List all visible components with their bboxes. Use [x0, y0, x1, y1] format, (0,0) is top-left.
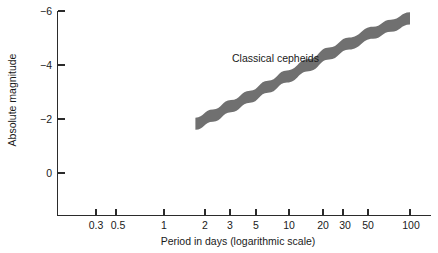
period-luminosity-plot: −6 −4 −2 0 0.3 0.5 1 2 3 5 10 2 — [0, 0, 438, 253]
x-tick-label: 1 — [161, 219, 167, 231]
x-axis-title: Period in days (logarithmic scale) — [161, 235, 316, 247]
x-axis-ticks — [96, 209, 410, 216]
y-tick-label: −2 — [40, 113, 52, 125]
x-tick-label: 30 — [339, 219, 351, 231]
y-axis-ticks — [58, 11, 65, 173]
x-tick-label: 0.5 — [111, 219, 126, 231]
axis-lines — [58, 11, 432, 216]
x-tick-label: 50 — [362, 219, 374, 231]
y-axis-tick-labels: −6 −4 −2 0 — [40, 5, 52, 179]
classical-cepheids-band — [195, 12, 410, 129]
x-tick-label: 0.3 — [89, 219, 104, 231]
x-tick-label: 100 — [402, 219, 420, 231]
x-tick-label: 5 — [253, 219, 259, 231]
y-tick-label: −6 — [40, 5, 52, 17]
x-tick-label: 10 — [283, 219, 295, 231]
x-tick-label: 3 — [227, 219, 233, 231]
y-tick-label: 0 — [46, 167, 52, 179]
x-tick-label: 20 — [317, 219, 329, 231]
chart-figure: −6 −4 −2 0 0.3 0.5 1 2 3 5 10 2 — [0, 0, 438, 253]
x-tick-label: 2 — [202, 219, 208, 231]
y-tick-label: −4 — [40, 59, 52, 71]
x-axis-tick-labels: 0.3 0.5 1 2 3 5 10 20 30 50 100 — [89, 219, 420, 231]
y-axis-title: Absolute magnitude — [6, 53, 18, 146]
classical-cepheids-label: Classical cepheids — [232, 52, 319, 64]
